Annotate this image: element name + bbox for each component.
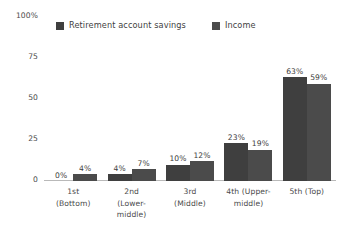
- y-axis-tick-100: 100%: [16, 12, 38, 20]
- x-axis-label-3: 3rd(Middle): [161, 186, 219, 209]
- bar-income: [248, 150, 272, 181]
- bar-wrap-series-1: 63%: [283, 16, 307, 181]
- bar-wrap-series-2: 7%: [132, 16, 156, 181]
- x-axis-label-2: 2nd(Lower-middle): [102, 186, 160, 221]
- y-axis: 100% 75 50 25 0: [0, 0, 44, 231]
- bar-wrap-series-1: 23%: [224, 16, 248, 181]
- bar-income: [307, 84, 331, 181]
- plot-area: 0% 4% 4% 7%: [44, 16, 336, 181]
- bar-wrap-series-2: 19%: [248, 16, 272, 181]
- bar-wrap-series-2: 4%: [73, 16, 97, 181]
- bar-group-3: 10% 12%: [161, 16, 219, 181]
- x-axis-label-5: 5th (Top): [278, 186, 336, 198]
- bar-retirement-account-savings: [224, 143, 248, 181]
- bar-group-1: 0% 4%: [44, 16, 102, 181]
- bar-value-label: 59%: [299, 74, 339, 82]
- y-axis-tick-25: 25: [28, 135, 38, 143]
- y-axis-tick-0: 0: [33, 176, 38, 184]
- x-axis-label-1: 1st(Bottom): [44, 186, 102, 209]
- bar-retirement-account-savings: [108, 174, 132, 181]
- bar-retirement-account-savings: [283, 77, 307, 181]
- bar-wrap-series-2: 12%: [190, 16, 214, 181]
- bar-value-label: 12%: [182, 152, 222, 160]
- bar-group-5: 63% 59%: [278, 16, 336, 181]
- bar-income: [73, 174, 97, 181]
- bar-income: [190, 161, 214, 181]
- x-axis-category-labels: 1st(Bottom) 2nd(Lower-middle) 3rd(Middle…: [44, 186, 336, 231]
- bar-wrap-series-1: 0%: [49, 16, 73, 181]
- bar-group-4: 23% 19%: [219, 16, 277, 181]
- grouped-bar-chart: Retirement account savings Income 100% 7…: [0, 0, 339, 231]
- x-axis-label-4: 4th (Upper-middle): [216, 186, 281, 209]
- bar-retirement-account-savings: [166, 165, 190, 182]
- bar-group-2: 4% 7%: [102, 16, 160, 181]
- bar-wrap-series-1: 4%: [108, 16, 132, 181]
- bar-income: [132, 169, 156, 181]
- bar-value-label: 19%: [240, 140, 280, 148]
- bar-wrap-series-2: 59%: [307, 16, 331, 181]
- y-axis-tick-50: 50: [28, 94, 38, 102]
- y-axis-tick-75: 75: [28, 53, 38, 61]
